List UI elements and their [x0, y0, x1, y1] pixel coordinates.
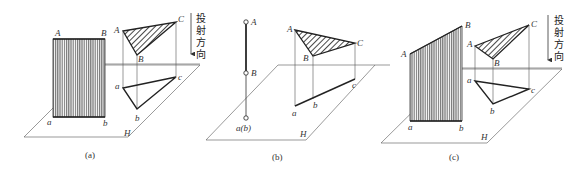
label-A: A	[250, 17, 257, 27]
h-plane	[206, 65, 375, 140]
projection-diagram: A B a b A C B a c b H (a) 投 射 方 向	[0, 0, 581, 175]
projected-line	[295, 79, 355, 106]
dir-char-1: 投	[554, 14, 564, 26]
label-A2: A	[466, 39, 473, 49]
label-B: B	[251, 68, 257, 78]
label-a2: a	[467, 75, 472, 85]
label-c: c	[352, 80, 356, 90]
dir-char-2: 射	[554, 27, 564, 38]
caption-c: (c)	[449, 152, 459, 162]
label-b: b	[103, 118, 108, 128]
label-a: a	[47, 117, 52, 127]
label-b: b	[459, 123, 464, 133]
dir-char-1: 投	[196, 12, 206, 24]
label-B: B	[101, 28, 107, 38]
caption-a: (a)	[85, 150, 95, 160]
point-ab	[244, 116, 248, 120]
label-H: H	[480, 132, 488, 142]
space-triangle	[475, 25, 529, 59]
label-c: c	[531, 85, 535, 95]
dir-char-3: 方	[554, 38, 564, 50]
projected-triangle	[475, 81, 529, 104]
label-B2: B	[494, 58, 500, 68]
label-A: A	[54, 28, 61, 38]
dir-char-3: 方	[196, 36, 206, 48]
label-B: B	[465, 20, 471, 30]
label-B2: B	[138, 54, 144, 64]
label-C: C	[531, 19, 538, 29]
space-triangle	[123, 22, 176, 55]
label-C: C	[357, 38, 364, 48]
label-c: c	[178, 72, 182, 82]
label-A2: A	[113, 25, 120, 35]
label-B2: B	[303, 53, 309, 63]
label-A: A	[400, 49, 407, 59]
caption-b: (b)	[272, 152, 283, 162]
panel-b: 投 射 方 向 A B a(b) A C B a b c H (b)	[191, 12, 390, 162]
label-C: C	[178, 14, 185, 24]
direction-text: 投 射 方 向	[196, 12, 206, 60]
label-b: b	[313, 100, 318, 110]
dir-char-4: 向	[196, 48, 206, 60]
direction-text: 投 射 方 向	[554, 14, 564, 62]
label-ab: a(b)	[236, 123, 251, 133]
panel-a: A B a b A C B a c b H (a)	[24, 14, 200, 160]
dir-char-4: 向	[554, 50, 564, 62]
label-A2: A	[286, 24, 293, 34]
projected-triangle	[123, 77, 176, 109]
label-b2: b	[135, 113, 140, 123]
label-a: a	[408, 122, 413, 132]
label-b2: b	[490, 106, 495, 116]
label-H: H	[123, 128, 131, 138]
label-a2: a	[115, 81, 120, 91]
point-A	[244, 20, 248, 24]
dir-char-2: 射	[196, 25, 206, 36]
label-a: a	[292, 108, 297, 118]
label-H: H	[299, 129, 307, 139]
panel-c: A B a b A C B a c b 投 射 方 向 H (c)	[381, 14, 564, 162]
point-B	[244, 71, 248, 75]
projection-rect	[53, 39, 105, 117]
